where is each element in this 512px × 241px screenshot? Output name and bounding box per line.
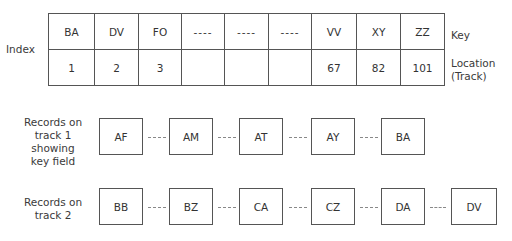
record-box: BA	[381, 118, 425, 155]
key-label: Key	[451, 29, 470, 42]
track-cell: 67	[312, 50, 357, 86]
connector	[289, 207, 307, 208]
key-cell-ellipsis: ----	[225, 14, 269, 50]
index-table: BA DV FO ---- ---- ---- VV XY ZZ 1 2 3 6…	[48, 13, 445, 86]
record-box: BB	[99, 188, 143, 225]
track-cell	[269, 50, 312, 86]
connector	[430, 207, 446, 208]
record-box: AT	[239, 118, 283, 155]
record-box: CZ	[311, 188, 355, 225]
track-cell: 2	[95, 50, 139, 86]
record-box: AM	[169, 118, 213, 155]
location-label: Location (Track)	[451, 57, 495, 83]
connector	[289, 137, 307, 138]
track-cell	[182, 50, 225, 86]
record-box: DA	[381, 188, 425, 225]
track-cell: 101	[401, 50, 445, 86]
key-cell-ellipsis: ----	[269, 14, 312, 50]
key-cell: DV	[95, 14, 139, 50]
record-box: AY	[311, 118, 355, 155]
track-cell: 82	[357, 50, 401, 86]
key-cell: VV	[312, 14, 357, 50]
location-row: 1 2 3 67 82 101	[49, 50, 445, 86]
connector	[360, 137, 378, 138]
connector	[148, 137, 166, 138]
track-cell: 3	[139, 50, 182, 86]
key-cell-ellipsis: ----	[182, 14, 225, 50]
connector	[148, 207, 166, 208]
connector	[218, 137, 236, 138]
connector	[360, 207, 378, 208]
key-cell: FO	[139, 14, 182, 50]
key-cell: ZZ	[401, 14, 445, 50]
record-box: CA	[239, 188, 283, 225]
key-cell: XY	[357, 14, 401, 50]
track1-label: Records on track 1 showing key field	[12, 116, 94, 168]
record-box: DV	[451, 188, 497, 225]
record-box: BZ	[169, 188, 213, 225]
key-cell: BA	[49, 14, 95, 50]
record-box: AF	[99, 118, 143, 155]
track-cell: 1	[49, 50, 95, 86]
connector	[218, 207, 236, 208]
track-cell	[225, 50, 269, 86]
index-label: Index	[6, 43, 35, 56]
key-row: BA DV FO ---- ---- ---- VV XY ZZ	[49, 14, 445, 50]
track2-label: Records on track 2	[12, 196, 94, 222]
